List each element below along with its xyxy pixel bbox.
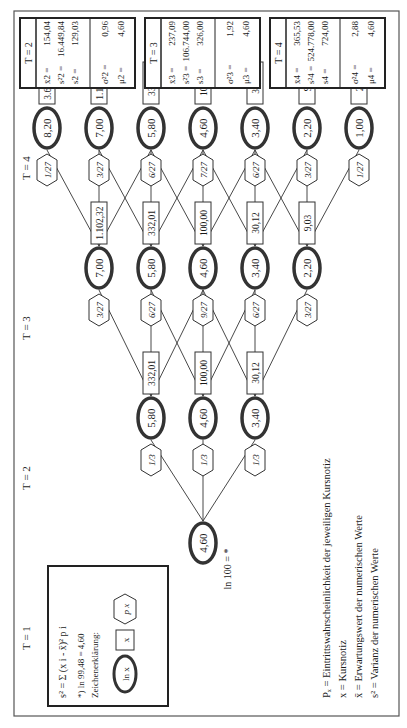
root-node: 4,60	[190, 523, 216, 563]
probability-value: 1/3	[199, 454, 209, 466]
stats-title: T = 4	[273, 42, 284, 64]
period-label-t1: T = 1	[20, 626, 32, 650]
ln-value: 7,00	[93, 118, 105, 138]
probability-value: 6/27	[251, 302, 261, 319]
t3-node: 5,80332,016/27	[138, 202, 164, 326]
ln-value: 3,40	[249, 258, 261, 278]
stat-value-mu: 4,60	[366, 21, 376, 37]
ln-note: *) ln 99,48 = 4,60	[76, 633, 86, 698]
stat-symbol-s2: s²4 =	[306, 66, 316, 84]
ln-value: 4,60	[197, 408, 209, 428]
stat-symbol-sigma2: σ²3 =	[225, 65, 235, 84]
price-value: 30,12	[251, 212, 261, 234]
stat-symbol-mu: μ2 =	[116, 67, 126, 84]
probability-value: 1/27	[355, 162, 365, 179]
price-value: 30,12	[251, 362, 261, 384]
ln-value: 4,60	[197, 118, 209, 138]
stat-symbol-s2: s²2 =	[56, 66, 66, 84]
t2-node: 3,4030,121/3	[242, 352, 268, 476]
stat-symbol-mu: μ4 =	[366, 67, 376, 84]
ln-value: 1,00	[353, 118, 365, 138]
price-value: 100,00	[199, 210, 209, 236]
probability-value: 6/27	[147, 302, 157, 319]
period-label-t4: T = 4	[20, 156, 32, 180]
stat-symbol-s: s4 =	[320, 69, 330, 84]
stat-symbol-mu: μ3 =	[241, 67, 251, 84]
stats-box-t4: T = 4x̄4 =365,53s²4 =524.778,00s4 =724,0…	[270, 18, 385, 88]
t3-node: 4,60100,009/27	[190, 202, 216, 326]
ln-value: 2,20	[301, 118, 313, 138]
stat-value-xbar: 237,09	[167, 21, 177, 46]
probability-value: 1/27	[43, 162, 53, 179]
stat-value-sigma2: 2,88	[350, 21, 360, 37]
rotated-page: 4,60ln 100 = *5,80332,011/34,60100,001/3…	[0, 0, 407, 728]
stat-symbol-xbar: x̄4 =	[292, 68, 302, 84]
period-label-t2: T = 2	[20, 466, 32, 490]
t2-node: 5,80332,011/3	[138, 352, 164, 476]
stat-symbol-sigma2: σ²4 =	[350, 65, 360, 84]
ln-value: 3,40	[249, 408, 261, 428]
stat-value-s2: 106.744,00	[181, 21, 191, 62]
stat-symbol-xbar: x̄3 =	[167, 68, 177, 84]
probability-value: 3/27	[303, 302, 313, 320]
t3-node: 3,4030,126/27	[242, 202, 268, 326]
stat-value-s: 724,00	[320, 21, 330, 46]
ln-value: 4,60	[197, 258, 209, 278]
legend-heading: Zeichenerklärung:	[90, 632, 100, 698]
stat-symbol-sigma2: σ²2 =	[100, 65, 110, 84]
probability-value: 1/3	[251, 454, 261, 466]
ln-value: 7,00	[93, 258, 105, 278]
stat-symbol-xbar: x̄2 =	[42, 68, 52, 84]
legend-line: x = Kursnotiz	[337, 640, 348, 698]
stat-value-sigma2: 0,96	[100, 21, 110, 37]
ln-value: 5,80	[145, 258, 157, 278]
probability-value: 3/27	[95, 162, 105, 180]
root-label: ln 100 = *	[222, 549, 233, 590]
ln-value: 2,20	[301, 258, 313, 278]
legend-line: x̄ = Erwartungswert der numerischen Wert…	[353, 515, 364, 698]
ln-value: 3,40	[249, 118, 261, 138]
stats-title: T = 3	[148, 42, 159, 64]
stat-symbol-s: s3 =	[195, 69, 205, 84]
price-value: 1.102,32	[95, 206, 105, 240]
probability-value: 7/27	[199, 162, 209, 179]
stat-value-s2: 524.778,00	[306, 21, 316, 62]
stat-symbol-s2: s²3 =	[181, 66, 191, 84]
price-value: 332,01	[147, 360, 157, 386]
ln-value: 5,80	[145, 408, 157, 428]
stat-value-sigma2: 1,92	[225, 21, 235, 37]
t3-node: 2,209,033/27	[294, 202, 320, 326]
probability-value: 6/27	[251, 162, 261, 179]
binomial-tree-diagram: 4,60ln 100 = *5,80332,011/34,60100,001/3…	[0, 0, 407, 728]
stats-box-t3: T = 3x̄3 =237,09s²3 =106.744,00s3 =326,0…	[145, 18, 260, 88]
legend-line: Pₓ = Eintrittswahrscheinlichkeit der jew…	[321, 458, 332, 698]
probability-value: 1/3	[147, 454, 157, 466]
stat-symbol-s: s2 =	[70, 69, 80, 84]
stat-value-s: 326,00	[195, 21, 205, 46]
probability-value: 3/27	[95, 302, 105, 320]
legend-ln-label: ln x	[121, 667, 131, 681]
stat-value-s: 129,03	[70, 21, 80, 46]
ln-value: 5,80	[145, 118, 157, 138]
probability-value: 6/27	[147, 162, 157, 179]
stat-value-s2: 16.449,84	[56, 21, 66, 58]
stats-title: T = 2	[23, 42, 34, 64]
ln-value: 4,60	[197, 533, 209, 553]
legend-line: s² = Varianz der numerischen Werte	[369, 548, 380, 698]
probability-value: 3/27	[303, 162, 313, 180]
stat-value-xbar: 154,04	[42, 21, 52, 46]
period-label-t3: T = 3	[20, 316, 32, 340]
price-value: 332,01	[147, 210, 157, 236]
stat-value-mu: 4,60	[116, 21, 126, 37]
price-value: 9,03	[303, 214, 313, 231]
legend-p-label: p x	[121, 604, 131, 616]
t2-node: 4,60100,001/3	[190, 352, 216, 476]
probability-value: 9/27	[199, 302, 209, 319]
legend-x-label: x	[121, 637, 131, 642]
stats-box-t2: T = 2x̄2 =154,04s²2 =16.449,84s2 =129,03…	[20, 18, 135, 88]
t3-node: 7,001.102,323/27	[86, 202, 112, 326]
price-value: 100,00	[199, 360, 209, 386]
variance-formula: s² = Σ (x i - x̄)² p i	[57, 626, 69, 698]
stat-value-xbar: 365,53	[292, 21, 302, 46]
stat-value-mu: 4,60	[241, 21, 251, 37]
